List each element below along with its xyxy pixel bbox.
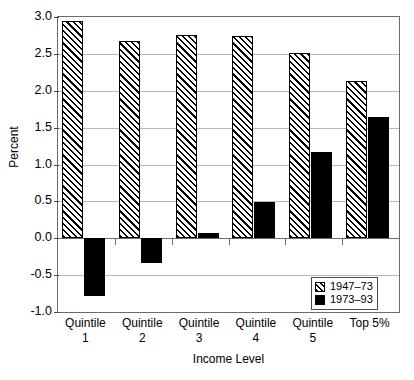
bar-chart: 3.02.52.01.51.00.50.0-0.5-1.0 Percent 19… xyxy=(0,0,414,380)
y-tick-mark xyxy=(54,312,59,313)
y-tick-label: 0.0 xyxy=(4,232,56,242)
legend-item-2[interactable]: 1973–93 xyxy=(315,293,373,306)
plot-area xyxy=(57,16,400,313)
bar-2-6 xyxy=(368,117,389,239)
bar-1-3 xyxy=(176,35,197,239)
y-tick-mark xyxy=(54,275,59,276)
y-tick-label: 0.5 xyxy=(4,195,56,205)
y-tick-mark xyxy=(54,201,59,202)
chart-legend[interactable]: 1947–731973–93 xyxy=(311,277,378,310)
x-tick-label-6: Top 5% xyxy=(335,316,405,331)
bar-2-4 xyxy=(254,202,275,238)
y-tick-mark xyxy=(54,165,59,166)
y-tick-mark xyxy=(54,128,59,129)
bar-1-6 xyxy=(346,81,367,238)
x-tick-label-line2: 5 xyxy=(278,331,348,346)
x-axis-title: Income Level xyxy=(57,352,400,366)
x-tick-label-line1: Quintile xyxy=(122,316,163,330)
x-tick-mark xyxy=(229,238,230,245)
x-tick-label-line1: Top 5% xyxy=(350,316,390,330)
bar-1-1 xyxy=(62,21,83,239)
gridline xyxy=(58,275,399,276)
legend-item-1[interactable]: 1947–73 xyxy=(315,280,373,293)
y-tick-mark xyxy=(54,54,59,55)
y-tick-label: -1.0 xyxy=(4,306,56,316)
x-tick-mark xyxy=(172,238,173,245)
bar-2-2 xyxy=(141,238,162,263)
x-axis-tick-labels: Quintile1Quintile2Quintile3Quintile4Quin… xyxy=(57,316,400,350)
y-tick-label: 2.0 xyxy=(4,85,56,95)
x-tick-label-line1: Quintile xyxy=(65,316,106,330)
legend-label-1: 1947–73 xyxy=(330,280,373,293)
x-tick-label-line1: Quintile xyxy=(236,316,277,330)
y-tick-mark xyxy=(54,91,59,92)
bar-1-4 xyxy=(232,36,253,238)
x-tick-label-line1: Quintile xyxy=(179,316,220,330)
x-tick-mark xyxy=(285,238,286,245)
x-tick-mark xyxy=(342,238,343,245)
y-tick-label: -0.5 xyxy=(4,269,56,279)
y-tick-label: 2.5 xyxy=(4,48,56,58)
bar-2-5 xyxy=(311,152,332,238)
gridline xyxy=(58,54,399,55)
y-tick-label: 3.0 xyxy=(4,11,56,21)
legend-label-2: 1973–93 xyxy=(330,293,373,306)
bar-1-2 xyxy=(119,41,140,238)
y-axis-tick-labels: 3.02.52.01.51.00.50.0-0.5-1.0 xyxy=(0,0,56,380)
legend-swatch-1-icon xyxy=(315,282,325,292)
legend-swatch-2-icon xyxy=(315,295,325,305)
x-tick-label-line1: Quintile xyxy=(292,316,333,330)
bar-1-5 xyxy=(289,53,310,238)
x-tick-mark xyxy=(115,238,116,245)
y-tick-mark xyxy=(54,238,59,239)
y-axis-title: Percent xyxy=(7,107,21,187)
bar-2-1 xyxy=(84,238,105,296)
bar-2-3 xyxy=(198,233,219,238)
y-tick-mark xyxy=(54,17,59,18)
